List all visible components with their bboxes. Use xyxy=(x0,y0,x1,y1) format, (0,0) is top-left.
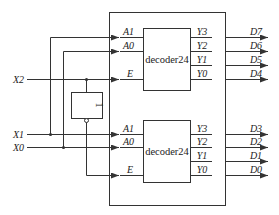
output-d0: D0 xyxy=(249,164,262,175)
upper-decoder-label: decoder24 xyxy=(145,54,189,65)
input-x0: X0 xyxy=(12,142,24,153)
input-x2: X2 xyxy=(12,74,24,85)
lower-pin-y1: Y1 xyxy=(197,150,208,161)
output-wires: D7 D6 D5 D4 D3 D2 D1 D0 xyxy=(225,26,268,176)
output-d5: D5 xyxy=(249,54,262,65)
x2-wire xyxy=(27,78,119,92)
lower-pin-a1: A1 xyxy=(122,123,134,134)
upper-pin-y3: Y3 xyxy=(197,26,208,37)
upper-pin-y2: Y2 xyxy=(197,40,208,51)
output-d2: D2 xyxy=(249,136,262,147)
lower-pin-y3: Y3 xyxy=(197,123,208,134)
output-d3: D3 xyxy=(249,123,262,134)
lower-decoder-label: decoder24 xyxy=(145,146,189,157)
inversion-bubble xyxy=(85,119,89,123)
circuit-diagram: decoder24 A1 A0 E Y3 Y2 Y1 Y0 decoder24 … xyxy=(0,0,279,215)
output-d7: D7 xyxy=(249,26,263,37)
upper-pin-a0: A0 xyxy=(122,40,134,51)
lower-pin-e: E xyxy=(126,164,133,175)
lower-pin-y0: Y0 xyxy=(197,164,208,175)
lower-pin-y2: Y2 xyxy=(197,136,208,147)
input-x1: X1 xyxy=(12,129,24,140)
upper-pin-y1: Y1 xyxy=(197,54,208,65)
output-d4: D4 xyxy=(249,68,262,79)
not-gate-label: 1 xyxy=(94,103,105,108)
upper-pin-a1: A1 xyxy=(122,26,134,37)
output-d6: D6 xyxy=(249,40,262,51)
lower-pin-a0: A0 xyxy=(122,136,134,147)
upper-pin-y0: Y0 xyxy=(197,68,208,79)
x1-wire xyxy=(27,38,119,137)
upper-pin-e: E xyxy=(126,68,133,79)
output-d1: D1 xyxy=(249,150,262,161)
